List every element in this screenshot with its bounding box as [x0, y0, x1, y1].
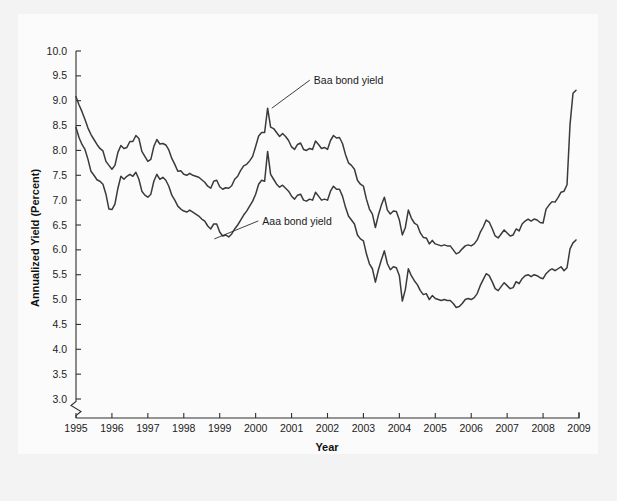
x-tick-label: 1995 [64, 422, 88, 434]
y-tick-label: 6.5 [52, 219, 67, 231]
x-axis-title: Year [315, 441, 339, 453]
y-tick-label: 9.0 [52, 94, 67, 106]
y-tick-label: 10.0 [47, 45, 68, 57]
x-tick-label: 2008 [531, 422, 555, 434]
y-tick-label: 5.0 [52, 293, 67, 305]
bond-yield-chart: 3.03.54.04.55.05.56.06.57.07.58.08.59.09… [0, 0, 617, 501]
y-tick-label: 6.0 [52, 243, 67, 255]
y-tick-label: 8.5 [52, 119, 67, 131]
x-tick-marks [76, 413, 579, 418]
y-tick-label: 4.0 [52, 343, 67, 355]
annotation-leader-line [214, 221, 258, 239]
x-tick-label: 1996 [100, 422, 124, 434]
x-tick-label: 2005 [424, 422, 448, 434]
y-tick-label: 9.5 [52, 69, 67, 81]
annotation-leader-line [272, 80, 310, 108]
x-tick-label: 2004 [388, 422, 412, 434]
y-tick-label: 3.5 [52, 368, 67, 380]
y-tick-label: 4.5 [52, 318, 67, 330]
y-tick-label: 7.5 [52, 169, 67, 181]
y-axis-title: Annualized Yield (Percent) [29, 169, 41, 307]
annotation-label: Aaa bond yield [262, 215, 332, 227]
y-tick-label: 5.5 [52, 268, 67, 280]
x-tick-label: 2001 [280, 422, 304, 434]
x-tick-label: 2003 [352, 422, 376, 434]
axis-break-mark [71, 399, 81, 418]
x-tick-label: 2007 [495, 422, 519, 434]
x-tick-labels: 1995199619971998199920002001200220032004… [64, 422, 591, 434]
y-tick-label: 3.0 [52, 393, 67, 405]
y-tick-label: 8.0 [52, 144, 67, 156]
series-line-baa [76, 90, 576, 254]
x-tick-label: 2009 [567, 422, 591, 434]
annotation-label: Baa bond yield [314, 74, 384, 86]
x-tick-label: 2002 [316, 422, 340, 434]
x-tick-label: 1997 [136, 422, 160, 434]
x-tick-label: 1999 [208, 422, 232, 434]
x-tick-label: 2000 [244, 422, 268, 434]
x-tick-label: 2006 [460, 422, 484, 434]
y-tick-labels: 3.03.54.04.55.05.56.06.57.07.58.08.59.09… [47, 45, 68, 405]
figure-container: 3.03.54.04.55.05.56.06.57.07.58.08.59.09… [0, 0, 617, 501]
x-tick-label: 1998 [172, 422, 196, 434]
series-annotations: Baa bond yieldAaa bond yield [214, 74, 383, 239]
y-tick-label: 7.0 [52, 194, 67, 206]
